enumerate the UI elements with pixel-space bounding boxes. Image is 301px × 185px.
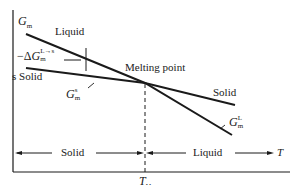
gibbs-energy-diagram: Gm Liquid −ΔGL→sm s Solid Gsm Melting po… xyxy=(0,0,301,185)
arrowhead-right-icon xyxy=(137,151,144,155)
delta-g-prefix: −Δ xyxy=(17,49,31,63)
melting-point-label: Melting point xyxy=(125,62,185,73)
liquid-region-label: Liquid xyxy=(193,147,222,158)
delta-g-label: −ΔGL→sm xyxy=(17,49,54,65)
solid-gibbs-label: Gsm xyxy=(66,87,80,103)
y-axis-label: Gm xyxy=(18,15,32,27)
gs-leader-line xyxy=(88,83,94,88)
solid-curve-label-left: s Solid xyxy=(12,71,42,82)
gs-symbol: G xyxy=(66,87,75,101)
liquid-gibbs-line xyxy=(26,34,232,135)
arrowhead-left-icon xyxy=(146,151,153,155)
delta-g-subscript: m xyxy=(40,55,54,63)
liquid-gibbs-label: GLm xyxy=(229,115,243,131)
x-axis-label: T xyxy=(277,147,283,158)
solid-region-label: Solid xyxy=(61,147,84,158)
gs-scripts: sm xyxy=(75,86,80,102)
tm-symbol: T xyxy=(139,174,146,185)
tm-subscript: M xyxy=(146,183,151,185)
arrowhead-left-icon xyxy=(15,151,22,155)
melting-temperature-label: TM xyxy=(139,175,151,185)
solid-gibbs-line xyxy=(26,68,235,105)
delta-g-scripts: L→sm xyxy=(40,47,54,63)
liquid-curve-label: Liquid xyxy=(55,26,84,37)
delta-g-symbol: G xyxy=(31,49,40,63)
y-axis-subscript: m xyxy=(27,22,32,30)
gs-subscript: m xyxy=(75,94,80,102)
y-axis-symbol: G xyxy=(18,14,27,28)
gl-subscript: m xyxy=(238,122,243,130)
delta-g-superscript: L→s xyxy=(40,47,54,55)
diagram-graphics xyxy=(0,0,301,185)
gs-superscript: s xyxy=(75,86,80,94)
gl-symbol: G xyxy=(229,115,238,129)
gl-superscript: L xyxy=(238,114,243,122)
gl-scripts: Lm xyxy=(238,114,243,130)
solid-curve-label-right: Solid xyxy=(213,87,236,98)
arrowhead-right-icon xyxy=(267,151,274,155)
